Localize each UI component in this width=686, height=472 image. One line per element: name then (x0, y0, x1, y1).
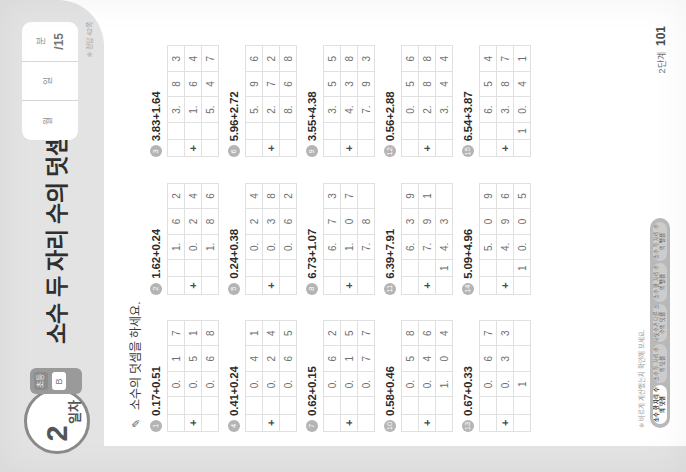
digit-cell[interactable]: 0 (341, 209, 358, 234)
digit-cell[interactable]: 7 (263, 71, 280, 96)
carry-cell[interactable] (497, 122, 514, 139)
carry-cell[interactable] (246, 397, 263, 414)
digit-cell[interactable]: 5 (280, 321, 297, 347)
digit-cell[interactable]: 1. (436, 371, 453, 396)
vertical-addition-grid[interactable]: 6.54+3.8710.41 (479, 45, 531, 157)
digit-cell[interactable]: 2. (263, 97, 280, 122)
digit-cell[interactable]: 0. (185, 234, 202, 259)
digit-cell[interactable]: 1 (185, 321, 202, 347)
carry-cell[interactable] (324, 260, 341, 277)
digit-cell[interactable]: 4 (436, 46, 453, 72)
carry-cell[interactable] (202, 260, 219, 277)
digit-cell[interactable]: 3. (497, 97, 514, 122)
carry-cell[interactable]: 1 (514, 260, 531, 277)
carry-cell[interactable] (480, 122, 497, 139)
digit-cell[interactable]: 1 (514, 371, 531, 396)
digit-cell[interactable]: 6 (497, 183, 514, 209)
digit-cell[interactable]: 3. (324, 97, 341, 122)
carry-cell[interactable] (168, 122, 185, 139)
progress-segment[interactable]: 소수 한 자리 수의 뺄셈 (653, 263, 667, 302)
carry-cell[interactable] (202, 122, 219, 139)
digit-cell[interactable]: 1 (419, 183, 436, 209)
digit-cell[interactable]: 8 (419, 71, 436, 96)
digit-cell[interactable]: 5 (324, 46, 341, 72)
digit-cell[interactable]: 7. (358, 97, 375, 122)
carry-cell[interactable] (514, 397, 531, 414)
carry-cell[interactable]: 1 (436, 260, 453, 277)
digit-cell[interactable]: 8 (497, 71, 514, 96)
vertical-addition-grid[interactable]: 6.39+7.9114.3 (401, 183, 453, 295)
digit-cell[interactable]: 5 (402, 346, 419, 371)
digit-cell[interactable]: 1. (185, 97, 202, 122)
digit-cell[interactable]: 0. (263, 234, 280, 259)
digit-cell[interactable]: 5. (480, 234, 497, 259)
digit-cell[interactable]: 7 (358, 346, 375, 371)
digit-cell[interactable]: 3 (497, 346, 514, 371)
digit-cell[interactable]: 6 (402, 46, 419, 72)
digit-cell[interactable]: 5 (324, 71, 341, 96)
digit-cell[interactable]: 4. (497, 234, 514, 259)
digit-cell[interactable]: 0. (514, 97, 531, 122)
digit-cell[interactable]: 0. (263, 371, 280, 396)
digit-cell[interactable]: 6 (202, 346, 219, 371)
digit-cell[interactable]: 8 (419, 46, 436, 72)
carry-cell[interactable] (402, 260, 419, 277)
digit-cell[interactable]: 0. (246, 234, 263, 259)
carry-cell[interactable] (202, 397, 219, 414)
carry-cell[interactable] (341, 397, 358, 414)
vertical-addition-grid[interactable]: 5.09+4.9610.05 (479, 183, 531, 295)
digit-cell[interactable]: 0. (324, 371, 341, 396)
digit-cell[interactable]: 8 (168, 71, 185, 96)
digit-cell[interactable]: 3. (168, 97, 185, 122)
carry-cell[interactable] (263, 122, 280, 139)
progress-segment[interactable]: 소수 두 자리 수의 덧셈 (653, 344, 667, 383)
vertical-addition-grid[interactable]: 0.58+0.461.04 (401, 320, 453, 432)
digit-cell[interactable]: 7 (341, 183, 358, 209)
carry-cell[interactable] (497, 397, 514, 414)
digit-cell[interactable]: 2 (280, 183, 297, 209)
carry-cell[interactable] (402, 122, 419, 139)
carry-cell[interactable] (341, 260, 358, 277)
digit-cell[interactable]: 5. (246, 97, 263, 122)
digit-cell[interactable]: 4 (436, 321, 453, 347)
score-column[interactable]: 분 /15 (22, 22, 78, 61)
digit-cell[interactable]: 4 (185, 46, 202, 72)
vertical-addition-grid[interactable]: 0.17+0.510.68 (167, 320, 219, 432)
digit-cell[interactable] (436, 183, 453, 209)
digit-cell[interactable]: 4 (246, 183, 263, 209)
carry-cell[interactable] (168, 260, 185, 277)
vertical-addition-grid[interactable]: 6.73+1.077.8 (323, 183, 375, 295)
digit-cell[interactable]: 8. (280, 97, 297, 122)
digit-cell[interactable]: 7. (419, 234, 436, 259)
digit-cell[interactable]: 7. (358, 234, 375, 259)
digit-cell[interactable]: 2 (185, 209, 202, 234)
carry-cell[interactable] (419, 260, 436, 277)
carry-cell[interactable] (402, 397, 419, 414)
digit-cell[interactable]: 7 (202, 46, 219, 72)
carry-cell[interactable] (185, 260, 202, 277)
digit-cell[interactable]: 9 (419, 209, 436, 234)
digit-cell[interactable]: 6 (202, 183, 219, 209)
digit-cell[interactable]: 6 (480, 346, 497, 371)
digit-cell[interactable]: 4 (263, 321, 280, 347)
digit-cell[interactable]: 6. (402, 234, 419, 259)
vertical-addition-grid[interactable]: 0.56+2.883.44 (401, 45, 453, 157)
digit-cell[interactable]: 0. (402, 97, 419, 122)
digit-cell[interactable]: 3 (497, 321, 514, 347)
digit-cell[interactable]: 1 (514, 46, 531, 72)
digit-cell[interactable] (358, 183, 375, 209)
carry-cell[interactable] (324, 397, 341, 414)
digit-cell[interactable]: 7 (497, 46, 514, 72)
digit-cell[interactable]: 4 (246, 346, 263, 371)
digit-cell[interactable]: 9 (402, 183, 419, 209)
digit-cell[interactable]: 8 (341, 46, 358, 72)
progress-segment[interactable]: 소수 한 자리 수의 덧셈 (653, 385, 667, 424)
digit-cell[interactable]: 8 (263, 183, 280, 209)
digit-cell[interactable]: 5 (514, 183, 531, 209)
digit-cell[interactable]: 5 (341, 321, 358, 347)
progress-segment[interactable]: 소수 두 자리 수의 뺄셈 (653, 222, 667, 261)
carry-cell[interactable] (419, 397, 436, 414)
digit-cell[interactable]: 8 (280, 46, 297, 72)
digit-cell[interactable]: 3 (324, 183, 341, 209)
digit-cell[interactable]: 0. (246, 371, 263, 396)
